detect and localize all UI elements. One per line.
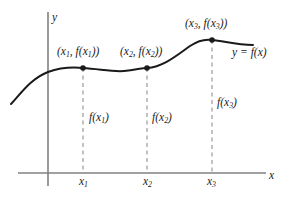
point-coordinate-label-x2: (x2, f(x2)): [120, 46, 162, 58]
y-axis-label: y: [52, 12, 57, 24]
marked-point-x1: [80, 65, 86, 71]
function-value-label-x1: f(x1): [89, 112, 109, 124]
function-graph-figure: y x x1 x2 x3 (x1, f(x1)) (x2, f(x2)) (x3…: [0, 0, 287, 198]
x-axis-label: x: [269, 170, 274, 182]
graph-canvas: [0, 0, 287, 198]
function-value-label-x3: f(x3): [217, 97, 237, 109]
x-tick-label-x1: x1: [79, 176, 88, 188]
function-value-label-x2: f(x2): [152, 112, 172, 124]
x-tick-label-x2: x2: [143, 176, 152, 188]
curve-equation-label: y = f(x): [232, 47, 267, 59]
marked-point-x3: [209, 37, 215, 43]
point-coordinate-label-x3: (x3, f(x3)): [185, 18, 227, 30]
marked-point-x2: [144, 65, 150, 71]
x-tick-label-x3: x3: [207, 176, 216, 188]
point-coordinate-label-x1: (x1, f(x1)): [57, 46, 99, 58]
